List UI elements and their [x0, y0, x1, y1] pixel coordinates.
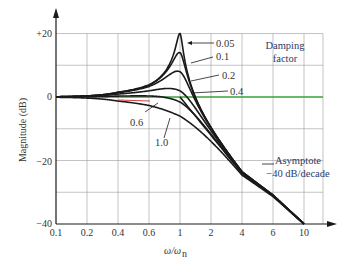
bode-magnitude-chart: +20 0 −20 −40 0.1 0.2 0.4 0.6 1 2 4 6 10… — [0, 0, 349, 268]
x-tick: 10 — [299, 227, 309, 238]
arrow-005-icon — [187, 41, 192, 45]
x-tick: 0.2 — [81, 227, 94, 238]
y-tick-p20: +20 — [36, 28, 52, 39]
x-tick: 1 — [178, 227, 183, 238]
zeta-label-04: 0.4 — [230, 86, 244, 97]
x-tick: 6 — [271, 227, 276, 238]
leader-04 — [191, 91, 228, 93]
x-tick: 0.1 — [50, 227, 63, 238]
zeta-label-06: 0.6 — [130, 117, 143, 128]
x-axis-arrow-icon — [327, 221, 337, 227]
damping-label-line1: Damping — [265, 40, 305, 51]
zeta-label-01: 0.1 — [216, 51, 229, 62]
x-tick: 0.4 — [112, 227, 125, 238]
damping-label-line2: factor — [273, 53, 298, 64]
y-tick-0: 0 — [47, 91, 52, 102]
y-axis-label: Magnitude (dB) — [17, 98, 29, 162]
asymptote-label-line2: −40 dB/decade — [266, 168, 330, 179]
asymptote-label-line1: Asymptote — [275, 155, 321, 166]
leader-10 — [164, 118, 170, 138]
zeta-label-005: 0.05 — [216, 38, 234, 49]
zeta-label-10: 1.0 — [155, 137, 168, 148]
x-tick: 2 — [209, 227, 214, 238]
y-axis-arrow-icon — [53, 8, 59, 18]
x-axis-label-sub: n — [182, 248, 187, 259]
x-axis-label: ω/ω — [164, 245, 181, 256]
zeta-label-02: 0.2 — [222, 70, 235, 81]
leader-02 — [191, 75, 219, 81]
x-tick: 0.6 — [143, 227, 156, 238]
y-tick-m20: −20 — [36, 156, 52, 167]
leader-01 — [191, 57, 213, 63]
x-tick: 4 — [240, 227, 245, 238]
